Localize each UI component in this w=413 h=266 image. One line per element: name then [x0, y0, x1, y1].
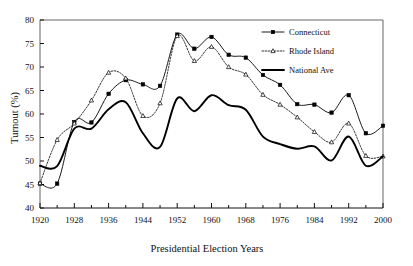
data-point-marker — [55, 182, 58, 185]
legend-marker — [271, 30, 274, 33]
y-tick-label: 65 — [25, 86, 35, 96]
y-tick-label: 75 — [25, 39, 35, 49]
y-tick-label: 80 — [25, 15, 35, 25]
y-axis-label: Turnout (%) — [9, 92, 21, 144]
x-tick-label: 1968 — [237, 215, 256, 225]
chart-canvas: 404550556065707580 192019281936194419521… — [0, 0, 413, 266]
data-point-marker — [107, 92, 110, 95]
x-tick-label: 1920 — [31, 215, 50, 225]
data-point-marker — [141, 83, 144, 86]
x-tick-label: 1984 — [305, 215, 324, 225]
data-point-marker — [364, 132, 367, 135]
data-point-marker — [244, 56, 247, 59]
y-tick-label: 40 — [25, 203, 35, 213]
data-point-marker — [381, 124, 384, 127]
x-tick-label: 1992 — [340, 215, 358, 225]
y-tick-label: 55 — [25, 133, 35, 143]
data-point-marker — [278, 83, 281, 86]
data-point-marker — [347, 94, 350, 97]
y-tick-label: 45 — [25, 180, 35, 190]
legend-label: Connecticut — [289, 27, 331, 37]
x-tick-label: 2000 — [374, 215, 393, 225]
x-tick-label: 1960 — [203, 215, 222, 225]
data-point-marker — [330, 111, 333, 114]
legend-label: National Ave — [289, 65, 334, 75]
data-point-marker — [313, 103, 316, 106]
turnout-line-chart: 404550556065707580 192019281936194419521… — [0, 0, 413, 266]
x-tick-label: 1936 — [100, 215, 119, 225]
data-point-marker — [261, 73, 264, 76]
y-tick-label: 60 — [25, 109, 35, 119]
x-axis-label: Presidential Election Years — [151, 243, 264, 254]
x-tick-label: 1976 — [271, 215, 290, 225]
legend-label: Rhode Island — [289, 46, 335, 56]
y-tick-label: 50 — [25, 156, 35, 166]
data-point-marker — [90, 121, 93, 124]
x-tick-label: 1952 — [168, 215, 186, 225]
x-tick-label: 1944 — [134, 215, 153, 225]
data-point-marker — [227, 53, 230, 56]
data-point-marker — [296, 102, 299, 105]
data-point-marker — [210, 35, 213, 38]
data-point-marker — [158, 84, 161, 87]
y-tick-label: 70 — [25, 62, 35, 72]
data-point-marker — [193, 47, 196, 50]
x-tick-label: 1928 — [65, 215, 84, 225]
